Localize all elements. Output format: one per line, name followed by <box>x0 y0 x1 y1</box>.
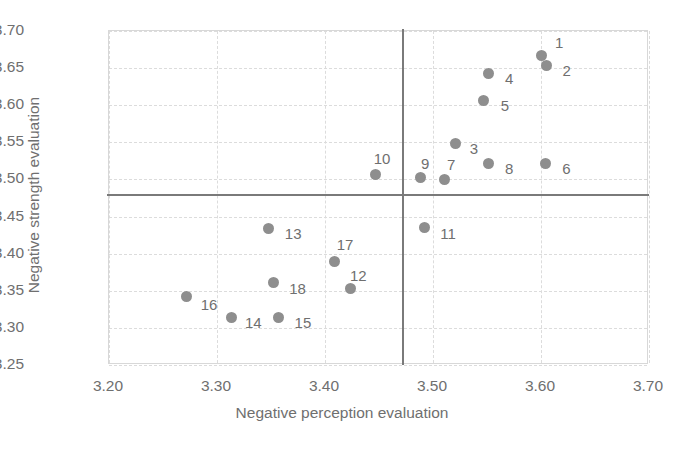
gridline-x-3.4 <box>325 31 326 363</box>
y-tick-3.55: 3.55 <box>0 133 24 149</box>
y-tick-3.65: 3.65 <box>0 59 24 75</box>
y-tick-3.50: 3.50 <box>0 170 24 186</box>
data-point-label-15: 15 <box>295 315 312 330</box>
y-tick-3.40: 3.40 <box>0 245 24 261</box>
x-tick-3.40: 3.40 <box>289 378 359 394</box>
gridline-y-3.55 <box>109 142 647 143</box>
y-axis-title: Negative strength evaluation <box>25 65 43 325</box>
data-point-label-14: 14 <box>245 315 262 330</box>
x-tick-3.70: 3.70 <box>613 378 683 394</box>
x-tick-3.50: 3.50 <box>397 378 467 394</box>
y-tick-3.30: 3.30 <box>0 319 24 335</box>
data-point-label-9: 9 <box>421 156 429 171</box>
data-point-7 <box>439 174 450 185</box>
data-point-17 <box>329 256 340 267</box>
data-point-label-8: 8 <box>505 161 513 176</box>
x-tick-3.60: 3.60 <box>505 378 575 394</box>
data-point-4 <box>483 68 494 79</box>
gridline-x-3.2 <box>109 31 110 363</box>
gridline-y-3.7 <box>109 31 647 32</box>
y-tick-3.60: 3.60 <box>0 96 24 112</box>
vertical-reference-line <box>402 29 404 365</box>
data-point-label-5: 5 <box>501 98 509 113</box>
data-point-5 <box>478 95 489 106</box>
y-tick-3.45: 3.45 <box>0 208 24 224</box>
data-point-label-3: 3 <box>470 141 478 156</box>
gridline-y-3.5 <box>109 179 647 180</box>
scatter-chart: 123456789101112131415161718 3.253.303.35… <box>0 0 684 454</box>
plot-area: 123456789101112131415161718 <box>108 30 648 364</box>
gridline-y-3.25 <box>109 365 647 366</box>
data-point-3 <box>450 138 461 149</box>
data-point-label-13: 13 <box>285 226 302 241</box>
data-point-14 <box>226 312 237 323</box>
gridline-y-3.4 <box>109 254 647 255</box>
horizontal-reference-line <box>107 194 649 196</box>
data-point-label-16: 16 <box>201 297 218 312</box>
data-point-label-1: 1 <box>555 35 563 50</box>
data-point-label-10: 10 <box>374 151 391 166</box>
data-point-15 <box>273 312 284 323</box>
gridline-y-3.6 <box>109 105 647 106</box>
x-tick-3.20: 3.20 <box>73 378 143 394</box>
y-tick-3.70: 3.70 <box>0 22 24 38</box>
gridline-y-3.45 <box>109 217 647 218</box>
data-point-label-12: 12 <box>350 268 367 283</box>
data-point-label-17: 17 <box>337 237 354 252</box>
data-point-label-2: 2 <box>562 63 570 78</box>
gridline-x-3.3 <box>217 31 218 363</box>
gridline-x-3.6 <box>541 31 542 363</box>
data-point-8 <box>483 158 494 169</box>
data-point-label-11: 11 <box>440 226 456 241</box>
data-point-9 <box>415 172 426 183</box>
x-tick-3.30: 3.30 <box>181 378 251 394</box>
data-point-6 <box>540 158 551 169</box>
data-point-label-6: 6 <box>562 161 570 176</box>
data-point-18 <box>268 277 279 288</box>
data-point-12 <box>345 283 356 294</box>
gridline-x-3.7 <box>649 31 650 363</box>
data-point-13 <box>263 223 274 234</box>
x-axis-title: Negative perception evaluation <box>0 404 684 422</box>
gridline-x-3.5 <box>433 31 434 363</box>
data-point-11 <box>419 222 430 233</box>
y-tick-3.25: 3.25 <box>0 356 24 372</box>
data-point-label-4: 4 <box>505 71 513 86</box>
data-point-16 <box>181 291 192 302</box>
data-point-label-18: 18 <box>289 281 306 296</box>
y-tick-3.35: 3.35 <box>0 282 24 298</box>
data-point-2 <box>541 60 552 71</box>
gridline-y-3.3 <box>109 328 647 329</box>
data-point-label-7: 7 <box>447 157 455 172</box>
